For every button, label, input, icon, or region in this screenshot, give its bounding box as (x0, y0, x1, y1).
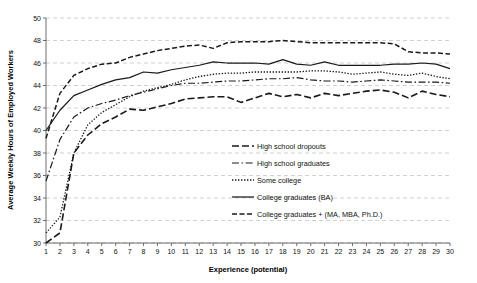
legend-label-3: College graduates (BA) (257, 193, 333, 202)
series-line-1 (46, 78, 450, 182)
series-line-4 (46, 41, 450, 139)
x-tick-label: 29 (432, 248, 440, 255)
x-tick-label: 2 (58, 248, 62, 255)
y-axis-title: Average Weekly Hours of Employed Workers (6, 50, 15, 210)
y-tick-label: 32 (33, 217, 41, 224)
chart-container: 3032343638404244464850 12345678910111213… (0, 0, 477, 283)
x-tick-label: 11 (182, 248, 189, 255)
x-tick-labels: 1234567891011121314151617181920212223242… (44, 248, 454, 255)
x-tick-label: 21 (321, 248, 329, 255)
y-tick-labels: 3032343638404244464850 (33, 15, 41, 247)
legend-label-1: High school graduates (257, 159, 330, 168)
x-tick-label: 19 (293, 248, 301, 255)
x-tick-label: 3 (72, 248, 76, 255)
x-axis-title: Experience (potential) (209, 265, 288, 274)
y-axis (43, 18, 46, 243)
x-tick-label: 5 (100, 248, 104, 255)
x-tick-label: 20 (307, 248, 315, 255)
x-tick-label: 1 (44, 248, 48, 255)
x-tick-label: 15 (237, 248, 245, 255)
y-tick-label: 40 (33, 127, 41, 134)
x-tick-label: 23 (349, 248, 357, 255)
x-tick-label: 24 (363, 248, 371, 255)
x-tick-label: 18 (279, 248, 287, 255)
line-chart: 3032343638404244464850 12345678910111213… (0, 0, 477, 283)
x-tick-label: 28 (418, 248, 426, 255)
x-tick-label: 10 (167, 248, 175, 255)
y-tick-label: 44 (33, 82, 41, 89)
x-tick-label: 27 (404, 248, 412, 255)
x-tick-label: 26 (390, 248, 398, 255)
x-tick-label: 30 (446, 248, 454, 255)
series-line-0 (46, 90, 450, 243)
legend: High school dropoutsHigh school graduate… (232, 142, 383, 219)
x-tick-label: 4 (86, 248, 90, 255)
y-tick-label: 30 (33, 240, 41, 247)
y-tick-label: 50 (33, 15, 41, 22)
y-tick-label: 48 (33, 37, 41, 44)
y-tick-label: 36 (33, 172, 41, 179)
x-tick-label: 25 (376, 248, 384, 255)
x-axis (46, 243, 450, 246)
y-tick-label: 46 (33, 60, 41, 67)
x-tick-label: 13 (209, 248, 217, 255)
legend-label-0: High school dropouts (257, 142, 326, 151)
x-tick-label: 12 (195, 248, 203, 255)
legend-label-2: Some college (257, 176, 301, 185)
x-tick-label: 8 (142, 248, 146, 255)
x-tick-label: 9 (155, 248, 159, 255)
gridlines (46, 18, 450, 243)
x-tick-label: 22 (335, 248, 343, 255)
y-tick-label: 34 (33, 195, 41, 202)
legend-label-4: College graduates + (MA, MBA, Ph.D.) (257, 210, 383, 219)
y-tick-label: 38 (33, 150, 41, 157)
x-tick-label: 7 (128, 248, 132, 255)
series-line-3 (46, 60, 450, 131)
x-tick-label: 17 (265, 248, 273, 255)
x-tick-label: 16 (251, 248, 259, 255)
y-tick-label: 42 (33, 105, 41, 112)
series-line-2 (46, 71, 450, 233)
series-lines (46, 41, 450, 244)
x-tick-label: 14 (223, 248, 231, 255)
x-tick-label: 6 (114, 248, 118, 255)
